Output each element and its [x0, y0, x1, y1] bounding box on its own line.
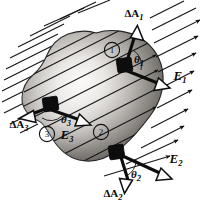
area-1-label: ΔA1	[124, 7, 143, 22]
field-2-glyph: E	[169, 151, 179, 166]
theta-1-subscript: 1	[140, 58, 144, 68]
field-1-glyph: E	[173, 68, 183, 83]
area-3-subscript: 3	[23, 123, 29, 133]
field-1-subscript: 1	[182, 75, 186, 85]
area-2-label: ΔA2	[103, 187, 123, 202]
marker-2-label: 2	[99, 127, 104, 137]
svg-text:E2: E2	[169, 151, 184, 168]
marker-1-label: 1	[110, 45, 115, 55]
area-2-subscript: 2	[117, 192, 123, 202]
field-1-label: E1	[173, 68, 187, 85]
field-2-label: E2	[169, 151, 184, 168]
svg-text:ΔA1: ΔA1	[124, 7, 143, 22]
area-3-delta: ΔA	[9, 118, 24, 130]
field-2-subscript: 2	[177, 158, 183, 168]
marker-3-label: 3	[45, 129, 50, 139]
figure-canvas: 1 ΔA1 θ1 E1	[0, 0, 200, 204]
theta-2-subscript: 2	[136, 173, 142, 183]
svg-text:ΔA2: ΔA2	[103, 187, 123, 202]
field-3-glyph: E	[60, 127, 70, 142]
area-1-delta: ΔA	[124, 7, 139, 19]
area-2-delta: ΔA	[103, 187, 118, 199]
electric-flux-figure: 1 ΔA1 θ1 E1	[0, 0, 200, 204]
field-3-subscript: 3	[68, 134, 74, 144]
element-2-group: 2 ΔA2 θ2 E2	[93, 124, 183, 202]
area-1-subscript: 1	[139, 12, 143, 22]
svg-text:E1: E1	[173, 68, 187, 85]
